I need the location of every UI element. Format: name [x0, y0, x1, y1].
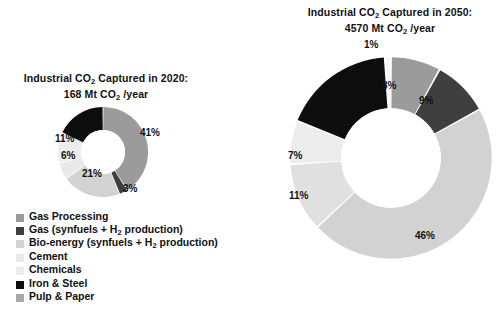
- chart-title-2050: Industrial CO2 Captured in 2050: 4570 Mt…: [292, 6, 488, 38]
- slice-label-2020-4: 11%: [55, 134, 74, 144]
- legend-swatch-gas-processing: [16, 214, 24, 222]
- slice-label-2050-6: 1%: [364, 40, 378, 50]
- legend-swatch-iron-steel: [16, 281, 24, 289]
- slice-label-2020-3: 6%: [61, 151, 75, 161]
- legend-swatch-gas-synfuels: [16, 227, 24, 235]
- slice-label-2050-1: 9%: [419, 96, 433, 106]
- legend-swatch-bio-energy: [16, 240, 24, 248]
- legend-label-pulp-paper: Pulp & Paper: [29, 291, 94, 305]
- slice-label-2020-0: 41%: [140, 128, 160, 138]
- chart-title-2050-line2: 4570 Mt CO2 /year: [292, 22, 488, 38]
- chart-title-2050-line1: Industrial CO2 Captured in 2050:: [308, 6, 472, 18]
- chart-title-2020: Industrial CO2 Captured in 2020: 168 Mt …: [18, 72, 194, 104]
- slice-label-2020-1: 3%: [123, 184, 137, 194]
- chart-title-2020-line2: 168 Mt CO2 /year: [18, 88, 194, 104]
- slice-label-2050-3: 11%: [289, 191, 308, 201]
- figure-canvas: Industrial CO2 Captured in 2020: 168 Mt …: [0, 0, 498, 317]
- legend-swatch-chemicals: [16, 267, 24, 275]
- legend-swatch-pulp-paper: [16, 294, 24, 302]
- slice-label-2050-2: 46%: [415, 231, 435, 241]
- legend-swatch-cement: [16, 254, 24, 262]
- legend-item-pulp-paper[interactable]: Pulp & Paper: [16, 291, 256, 304]
- slice-label-2020-2: 21%: [82, 169, 102, 179]
- slice-label-2050-0: 8%: [382, 81, 396, 91]
- legend: Gas Processing Gas (synfuels + H2 produc…: [16, 211, 256, 305]
- donut-2050-hole: [341, 108, 441, 208]
- slice-label-2050-4: 7%: [288, 151, 302, 161]
- chart-title-2020-line1: Industrial CO2 Captured in 2020:: [24, 72, 188, 84]
